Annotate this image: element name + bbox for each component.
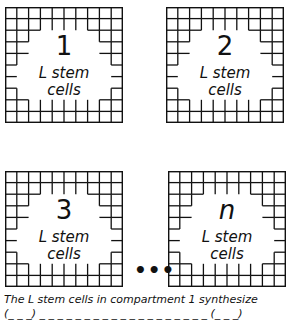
caption-line-1: The L stem cells in compartment 1 synthe… (4, 293, 258, 307)
grid-icon (5, 171, 123, 287)
grid-icon (168, 171, 286, 287)
compartment-3: 3 L stem cells (5, 171, 123, 287)
compartment-2: 2 L stem cells (166, 7, 284, 123)
caption: The L stem cells in compartment 1 synthe… (4, 293, 258, 321)
ellipsis-dots: ••• (134, 258, 175, 282)
compartment-n: n L stem cells (168, 171, 286, 287)
caption-line-2: (_ _ _) _ _ _ _ _ _ _ _ _ _ _ _ _ _ _ _ … (4, 307, 258, 321)
grid-icon (5, 7, 123, 123)
compartment-1: 1 L stem cells (5, 7, 123, 123)
grid-icon (166, 7, 284, 123)
